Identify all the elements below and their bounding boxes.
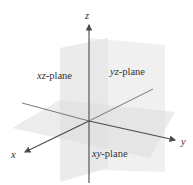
y-axis-label: y xyxy=(180,136,186,147)
xz-plane-label: xz-plane xyxy=(36,70,72,81)
diagram-svg: z y x xz-plane yz-plane xy-plane xyxy=(0,0,193,185)
z-axis-label: z xyxy=(84,10,89,21)
x-axis-label: x xyxy=(10,149,16,160)
xy-plane-label: xy-plane xyxy=(91,148,128,159)
yz-plane-label: yz-plane xyxy=(109,66,145,77)
coordinate-planes-diagram: z y x xz-plane yz-plane xy-plane xyxy=(0,0,193,185)
